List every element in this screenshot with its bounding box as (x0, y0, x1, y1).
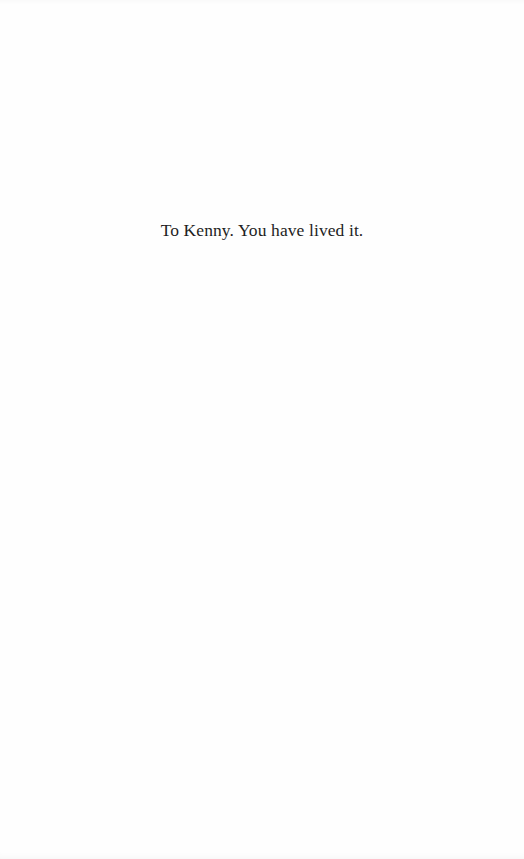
book-page: To Kenny. You have lived it. (0, 0, 524, 859)
dedication-text: To Kenny. You have lived it. (0, 219, 524, 241)
